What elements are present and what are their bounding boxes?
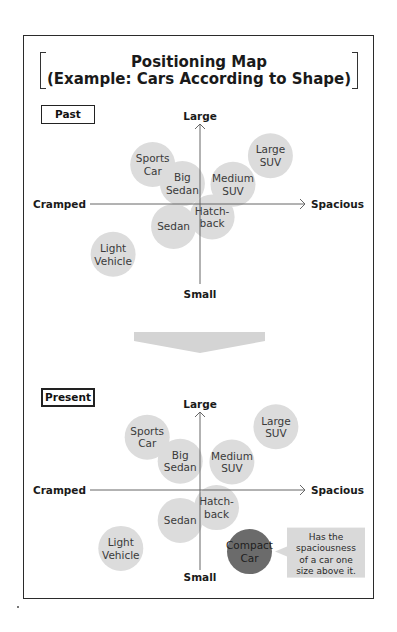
bubble-label: SUV: [265, 427, 287, 439]
bubble-light-vehicle: LightVehicle: [98, 526, 143, 571]
bubble-large-suv: LargeSUV: [248, 133, 293, 178]
bubble-label: Sports: [130, 425, 164, 437]
bubble-label: Vehicle: [102, 549, 140, 561]
callout: Has thespaciousnessof a car onesize abov…: [275, 528, 365, 578]
bubble-label: Light: [108, 536, 134, 548]
bubble-label: Car: [138, 437, 157, 449]
axis-label-spacious: Spacious: [311, 484, 364, 496]
bubble-label: Vehicle: [94, 255, 132, 267]
bubble-big-sedan: BigSedan: [158, 439, 203, 484]
positioning-map-past: SportsCarBigSedanMediumSUVLargeSUVHatch-…: [33, 110, 364, 300]
bubble-sedan: Sedan: [158, 498, 203, 543]
bubble-label: Medium: [211, 450, 253, 462]
car-bubbles: SportsCarBigSedanMediumSUVLargeSUVHatch-…: [91, 133, 293, 277]
bubble-hatchback: Hatch-back: [190, 194, 235, 239]
bubble-label: back: [200, 217, 226, 229]
positioning-map-figure: Positioning Map (Example: Cars According…: [0, 0, 397, 632]
axis-label-cramped: Cramped: [33, 484, 86, 496]
axis-label-large: Large: [183, 398, 217, 410]
bubble-label: Large: [256, 143, 286, 155]
bubble-label: Light: [100, 242, 126, 254]
bubble-label: SUV: [260, 156, 282, 168]
bubble-label: Big: [174, 171, 191, 183]
axis-label-cramped: Cramped: [33, 198, 86, 210]
positioning-map-present: SportsCarBigSedanMediumSUVLargeSUVHatch-…: [33, 398, 365, 583]
bubble-large-suv: LargeSUV: [253, 404, 298, 449]
bubble-label: Medium: [212, 172, 254, 184]
axis-label-spacious: Spacious: [311, 198, 364, 210]
callout-text-line: Has the: [309, 532, 344, 542]
bubble-label: Sports: [136, 152, 170, 164]
bubble-label: back: [204, 508, 230, 520]
car-bubbles: SportsCarBigSedanMediumSUVLargeSUVHatch-…: [98, 404, 298, 574]
axis-label-small: Small: [184, 288, 217, 300]
bubble-label: Sedan: [166, 184, 199, 196]
bubble-label: Large: [261, 415, 291, 427]
bubble-label: Car: [240, 552, 259, 564]
bubble-medium-suv: MediumSUV: [209, 440, 254, 485]
bubble-label: Sedan: [164, 514, 197, 526]
callout-pointer: [275, 547, 287, 557]
bubble-label: SUV: [221, 462, 243, 474]
callout-text-line: size above it.: [296, 566, 356, 576]
bubble-label: Compact: [226, 539, 273, 551]
positioning-maps-canvas: SportsCarBigSedanMediumSUVLargeSUVHatch-…: [0, 0, 397, 632]
callout-text-line: spaciousness: [296, 543, 356, 553]
axis-label-small: Small: [184, 571, 217, 583]
bubble-label: Sedan: [157, 220, 190, 232]
stray-dot: [17, 606, 19, 608]
bubble-label: Big: [172, 449, 189, 461]
bubble-label: Car: [144, 165, 163, 177]
transition-down-arrow-icon: [134, 332, 265, 353]
bubble-label: SUV: [222, 185, 244, 197]
bubble-sedan: Sedan: [151, 204, 196, 249]
axis-label-large: Large: [183, 110, 217, 122]
bubble-compact-car: CompactCar: [226, 529, 273, 574]
bubble-light-vehicle: LightVehicle: [91, 232, 136, 277]
bubble-label: Sedan: [164, 461, 197, 473]
callout-text-line: of a car one: [299, 555, 353, 565]
bubble-label: Hatch-: [199, 495, 234, 507]
